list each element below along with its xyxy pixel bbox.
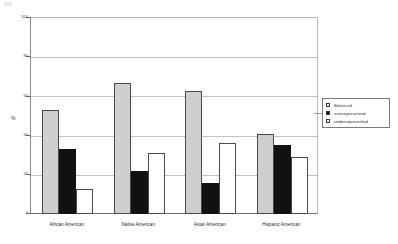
chart-legend: Balanced overrepresented underrepresente… [322,98,390,128]
bar-balanced [257,134,274,214]
y-axis-tick-label: 40 [6,133,28,137]
x-axis-labels: African American Native American Asian A… [31,222,317,232]
bar-overrepresented [59,149,76,214]
x-axis-label: Native American [103,222,175,232]
x-axis-label: African American [31,222,103,232]
y-axis-tick-label: 60 [6,94,28,98]
legend-swatch-icon [326,111,330,115]
bar-group [174,18,246,214]
legend-item-overrepresented: overrepresented [326,109,387,117]
legend-item-underrepresented: underrepresented [326,117,387,125]
bar-group [246,18,318,214]
scan-artifact [4,2,12,6]
bar-balanced [114,83,131,214]
legend-item-balanced: Balanced [326,101,387,109]
y-axis-tick-label: 20 [6,172,28,176]
legend-swatch-icon [326,119,330,123]
y-axis-tick-label: 100 [6,15,28,19]
legend-label: overrepresented [334,111,365,116]
y-axis-tick-label: 80 [6,54,28,58]
bar-overrepresented [131,171,148,214]
bar-groups [31,18,317,214]
x-axis-label: Asian American [174,222,246,232]
bar-balanced [185,91,202,214]
y-axis-tick-label: 0 [6,211,28,215]
bar-underrepresented [219,143,236,214]
bar-balanced [42,110,59,214]
legend-label: Balanced [334,103,352,108]
bar-group [31,18,103,214]
bar-underrepresented [76,189,93,214]
bar-overrepresented [274,145,291,214]
bar-group [103,18,175,214]
bar-chart: 100 80 60 40 20 0 % African American [0,0,398,244]
legend-leader-line [314,113,322,114]
y-axis-title: % [11,115,15,121]
bar-overrepresented [202,183,219,214]
bar-underrepresented [291,157,308,214]
legend-label: underrepresented [334,119,368,124]
bar-underrepresented [148,153,165,214]
legend-swatch-icon [326,103,330,107]
x-axis-label: Hispanic American [246,222,318,232]
